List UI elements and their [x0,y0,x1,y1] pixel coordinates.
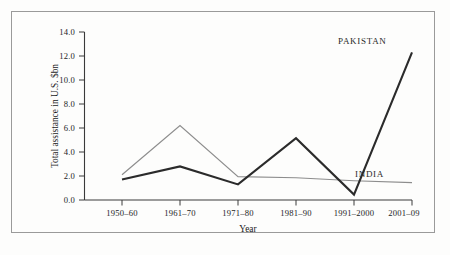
y-tick-label-7: 14.0 [59,27,75,37]
y-tick-label-6: 12.0 [59,51,75,61]
y-tick-label-1: 2.0 [64,171,75,181]
y-axis-title: Total assistance in U.S. $bn [50,64,60,168]
y-axis-ticks [79,32,85,200]
y-tick-label-5: 10.0 [59,75,75,85]
y-tick-label-2: 4.0 [64,147,75,157]
x-tick-label-2: 1971–80 [222,208,253,218]
series-label-india: INDIA [355,169,384,179]
line-chart: 0.0 2.0 4.0 6.0 8.0 10.0 12.0 14.0 1950–… [0,0,450,255]
x-tick-label-3: 1981–90 [280,208,311,218]
figure-canvas: 0.0 2.0 4.0 6.0 8.0 10.0 12.0 14.0 1950–… [0,0,450,255]
x-axis-title: Year [239,224,257,234]
x-tick-label-5: 2001–09 [388,208,419,218]
x-tick-label-4: 1991–2000 [334,208,374,218]
y-tick-label-3: 6.0 [64,123,75,133]
x-tick-label-1: 1961–70 [164,208,195,218]
series-label-pakistan: PAKISTAN [338,36,387,46]
y-tick-label-4: 8.0 [64,99,75,109]
x-axis-ticks [122,200,412,206]
x-tick-label-0: 1950–60 [106,208,137,218]
y-tick-label-0: 0.0 [64,195,75,205]
